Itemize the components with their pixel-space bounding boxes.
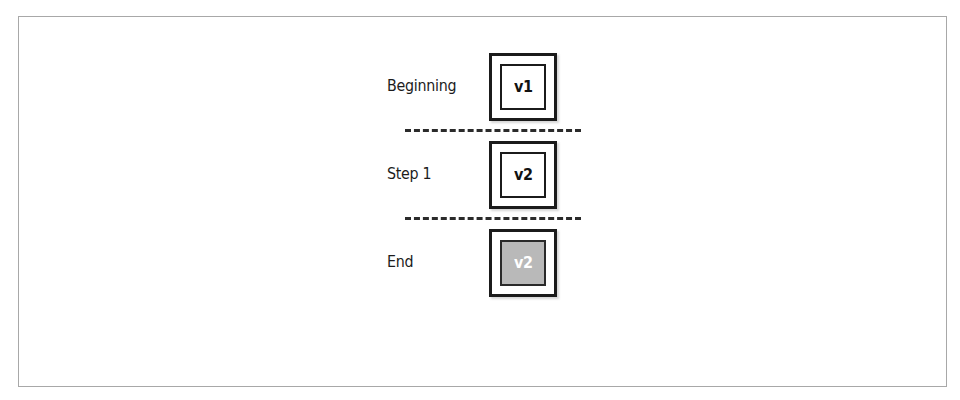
version-label-end: v2 xyxy=(514,255,533,271)
row-label-beginning: Beginning xyxy=(387,79,481,95)
diagram-row-step-1: Step 1 v2 xyxy=(387,132,581,217)
row-label-step-1: Step 1 xyxy=(387,167,481,183)
version-box-outer-end: v2 xyxy=(489,229,557,297)
version-label-step-1: v2 xyxy=(514,167,533,183)
diagram-stack: Beginning v1 Step 1 v2 End xyxy=(387,44,581,305)
version-box-inner-step-1: v2 xyxy=(500,152,546,198)
figure-frame: Beginning v1 Step 1 v2 End xyxy=(18,16,947,387)
version-box-outer-beginning: v1 xyxy=(489,53,557,121)
diagram-row-end: End v2 xyxy=(387,220,581,305)
version-box-outer-step-1: v2 xyxy=(489,141,557,209)
row-label-end: End xyxy=(387,255,481,271)
version-box-inner-end: v2 xyxy=(500,240,546,286)
diagram-row-beginning: Beginning v1 xyxy=(387,44,581,129)
version-label-beginning: v1 xyxy=(514,79,533,95)
version-box-inner-beginning: v1 xyxy=(500,64,546,110)
